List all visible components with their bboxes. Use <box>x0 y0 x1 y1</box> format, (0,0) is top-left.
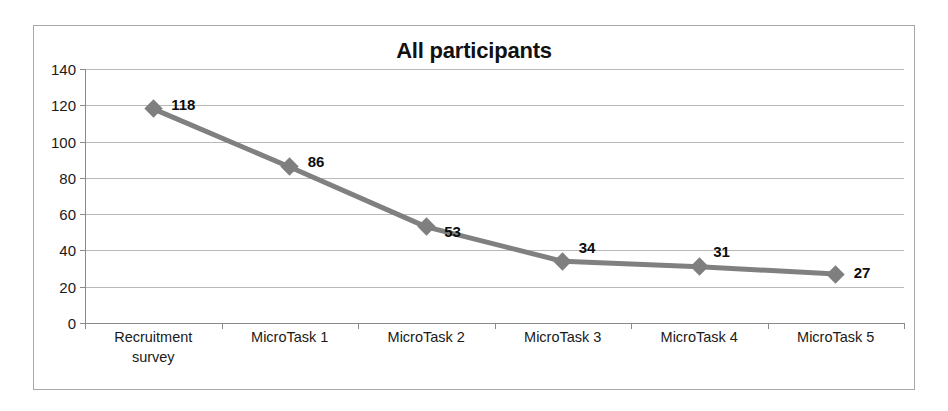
x-axis-category-label: Recruitment survey <box>85 328 222 367</box>
y-tick-label: 40 <box>59 242 76 259</box>
data-label: 86 <box>308 152 325 169</box>
x-axis-category-label: MicroTask 4 <box>631 328 768 367</box>
y-tick-label: 80 <box>59 169 76 186</box>
y-tick-label: 20 <box>59 278 76 295</box>
y-tick-label: 100 <box>51 133 76 150</box>
x-tick-mark <box>904 323 905 329</box>
data-label: 118 <box>171 95 195 112</box>
data-label: 53 <box>444 222 461 239</box>
chart-container: All participants 140120100806040200 1188… <box>33 25 915 390</box>
series-line <box>153 109 836 274</box>
data-label: 27 <box>854 264 871 281</box>
chart-title: All participants <box>34 38 914 64</box>
x-axis-category-label: MicroTask 5 <box>768 328 905 367</box>
y-tick-label: 120 <box>51 97 76 114</box>
x-axis-category-label: MicroTask 2 <box>358 328 495 367</box>
x-axis-category-labels: Recruitment surveyMicroTask 1MicroTask 2… <box>85 328 904 367</box>
y-tick-label: 60 <box>59 206 76 223</box>
data-label: 31 <box>713 242 730 259</box>
data-label: 34 <box>579 239 596 256</box>
x-axis-category-label: MicroTask 1 <box>222 328 359 367</box>
y-tick-label: 140 <box>51 61 76 78</box>
series-line-all-participants <box>85 69 904 323</box>
y-tick-label: 0 <box>68 315 76 332</box>
x-axis-category-label: MicroTask 3 <box>495 328 632 367</box>
plot-area: 140120100806040200 1188653343127 <box>85 69 904 323</box>
